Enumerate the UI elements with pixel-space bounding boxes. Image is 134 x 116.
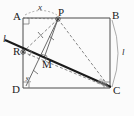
line-label-l: l	[3, 34, 6, 44]
segment-length-label-x: x	[38, 3, 42, 12]
point-marker-r-dot	[22, 51, 24, 53]
vertex-label-p: P	[58, 7, 64, 18]
vertex-label-a: A	[13, 11, 21, 22]
arc-bc-measure	[112, 20, 118, 87]
vertex-label-b: B	[112, 10, 119, 21]
vertex-label-c: C	[113, 85, 120, 96]
point-marker-p-dot	[57, 18, 59, 20]
vertex-label-d: D	[12, 84, 20, 95]
line-l-bold	[5, 40, 111, 87]
angle-wedge-c	[96, 78, 110, 88]
segment-pm	[44, 19, 58, 58]
geometry-figure: A B C D P R M x l y l	[0, 0, 134, 116]
vertex-label-m: M	[42, 59, 52, 70]
segment-length-label-l: l	[122, 48, 125, 57]
right-angle-mark-a	[23, 18, 29, 24]
angle-label-y: y	[26, 75, 29, 82]
vertex-label-r: R	[13, 46, 20, 57]
tick-mark-dm	[33, 70, 38, 74]
